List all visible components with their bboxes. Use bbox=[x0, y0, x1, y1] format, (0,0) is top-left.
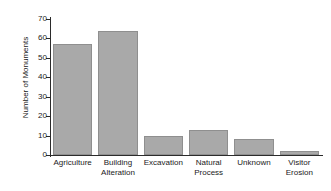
y-axis-tick-label: 0 bbox=[43, 151, 47, 159]
bar bbox=[98, 31, 137, 155]
x-axis-tick-label-line: Agriculture bbox=[48, 158, 97, 168]
x-axis-tick-label-line: Building bbox=[93, 158, 142, 168]
x-axis-tick-label: Unknown bbox=[229, 158, 278, 168]
x-axis-tick-label: VisitorErosion bbox=[275, 158, 324, 177]
plot-area: 010203040506070 bbox=[50, 19, 322, 155]
x-axis-tick-label-line: Excavation bbox=[139, 158, 188, 168]
y-axis-title: Number of Monuments bbox=[18, 0, 32, 155]
bar bbox=[53, 44, 92, 155]
bar bbox=[144, 136, 183, 155]
bar bbox=[189, 130, 228, 155]
y-axis-tick-label: 20 bbox=[38, 112, 47, 120]
x-axis-tick-label-line: Alteration bbox=[93, 168, 142, 178]
y-axis-tick-label: 30 bbox=[38, 93, 47, 101]
x-axis-tick-label-line: Unknown bbox=[229, 158, 278, 168]
bar bbox=[280, 151, 319, 155]
x-axis-tick-label: BuildingAlteration bbox=[93, 158, 142, 177]
y-axis-tick-label: 70 bbox=[38, 15, 47, 23]
x-axis-tick-label-line: Visitor bbox=[275, 158, 324, 168]
x-axis-line bbox=[50, 155, 323, 156]
y-axis-tick-label: 10 bbox=[38, 132, 47, 140]
x-axis-tick-label-line: Process bbox=[184, 168, 233, 178]
x-axis-tick-label: Excavation bbox=[139, 158, 188, 168]
y-axis-tick-label: 40 bbox=[38, 73, 47, 81]
bar bbox=[234, 139, 273, 155]
y-axis-tick-label: 50 bbox=[38, 54, 47, 62]
y-axis-tick-label: 60 bbox=[38, 34, 47, 42]
x-axis-tick-label-line: Erosion bbox=[275, 168, 324, 178]
x-axis-tick-label: Agriculture bbox=[48, 158, 97, 168]
bar-chart-figure: Number of Monuments 010203040506070 Agri… bbox=[0, 0, 331, 191]
x-axis-tick-label: NaturalProcess bbox=[184, 158, 233, 177]
x-axis-tick-label-line: Natural bbox=[184, 158, 233, 168]
